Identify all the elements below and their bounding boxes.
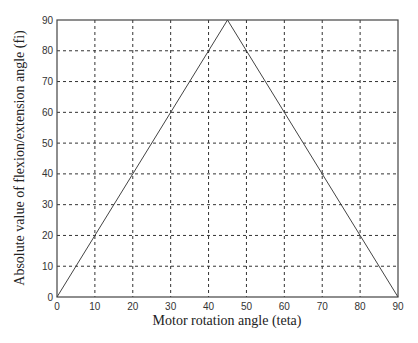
y-tick-label: 50 (42, 138, 54, 149)
y-axis-label: Absolute value of flexion/extension angl… (12, 30, 28, 286)
y-tick-label: 70 (42, 76, 54, 87)
x-tick-label: 70 (317, 301, 329, 312)
x-tick-label: 90 (392, 301, 404, 312)
x-tick-label: 60 (279, 301, 291, 312)
x-tick-label: 30 (165, 301, 177, 312)
y-tick-label: 80 (42, 45, 54, 56)
x-tick-label: 0 (54, 301, 60, 312)
plot-frame (57, 20, 398, 297)
y-tick-label: 20 (42, 230, 54, 241)
y-tick-label: 10 (42, 261, 54, 272)
x-tick-label: 20 (127, 301, 139, 312)
x-tick-label: 10 (89, 301, 101, 312)
x-tick-label: 40 (203, 301, 215, 312)
chart: 0102030405060708090 0102030405060708090 … (0, 0, 418, 343)
grid-lines (57, 20, 398, 297)
y-tick-label: 0 (47, 292, 53, 303)
x-axis-ticks: 0102030405060708090 (54, 301, 404, 312)
y-axis-ticks: 0102030405060708090 (42, 15, 54, 303)
x-tick-label: 80 (355, 301, 367, 312)
x-axis-label: Motor rotation angle (teta) (153, 313, 302, 329)
data-line (57, 20, 398, 297)
y-tick-label: 30 (42, 199, 54, 210)
y-tick-label: 90 (42, 15, 54, 26)
x-tick-label: 50 (241, 301, 253, 312)
y-tick-label: 40 (42, 168, 54, 179)
y-tick-label: 60 (42, 107, 54, 118)
